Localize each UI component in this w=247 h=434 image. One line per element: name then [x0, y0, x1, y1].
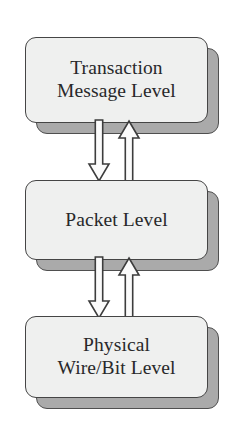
- layer-label-packet-level: Packet Level: [59, 209, 173, 232]
- arrow-down-packet-to-physical: [88, 257, 110, 319]
- layer-stack-diagram: Transaction Message Level Packet Level: [0, 0, 247, 434]
- layer-label-transaction-message-level: Transaction Message Level: [51, 57, 182, 103]
- layer-box-packet-level[interactable]: Packet Level: [25, 180, 208, 260]
- arrow-up-packet-to-transaction: [118, 120, 140, 182]
- layer-label-physical-wire-bit-level: Physical Wire/Bit Level: [51, 334, 181, 380]
- layer-box-transaction-message-level[interactable]: Transaction Message Level: [25, 37, 208, 123]
- arrow-down-transaction-to-packet: [88, 120, 110, 182]
- arrow-up-physical-to-packet: [118, 257, 140, 319]
- layer-box-physical-wire-bit-level[interactable]: Physical Wire/Bit Level: [25, 316, 208, 398]
